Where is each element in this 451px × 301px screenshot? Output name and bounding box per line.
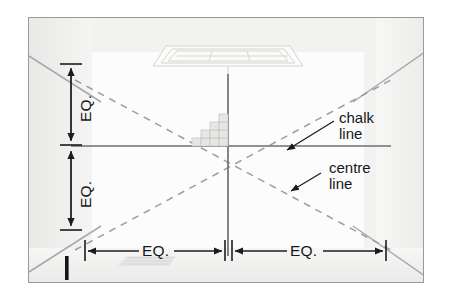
centre-line-leader-arrow [291,173,321,191]
eq-label-left-upper: EQ. [78,95,95,122]
diagram-frame: chalk line centre line EQ. EQ. EQ. EQ. [28,17,424,283]
eq-label-left-lower: EQ. [78,181,95,208]
floor-marker-bar [65,256,69,280]
ceiling-light-fixture-icon [153,46,303,66]
diagram-vector-overlay [29,18,423,282]
chalk-line-callout-line2: line [339,126,374,142]
centre-line-callout: centre line [329,160,371,192]
centre-line-callout-line1: centre [329,160,371,176]
chalk-line-callout: chalk line [339,110,374,142]
diagram-root: chalk line centre line EQ. EQ. EQ. EQ. [0,0,451,301]
centre-line-callout-line2: line [329,176,371,192]
diagram-canvas: chalk line centre line EQ. EQ. EQ. EQ. [29,18,423,282]
eq-label-bottom-left: EQ. [142,243,169,260]
tile-stair-pattern [192,114,228,146]
chalk-line-callout-line1: chalk [339,110,374,126]
eq-label-bottom-right: EQ. [290,243,317,260]
